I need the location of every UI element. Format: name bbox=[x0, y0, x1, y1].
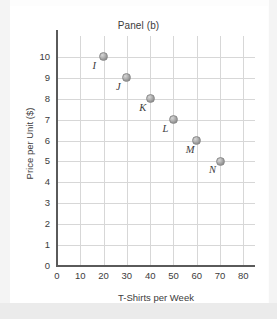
y-tick-label: 4 bbox=[26, 176, 50, 187]
gridline-vertical bbox=[80, 36, 81, 266]
y-tick-label: 2 bbox=[26, 218, 50, 229]
x-tick-label: 80 bbox=[231, 270, 255, 281]
data-point-marker bbox=[122, 73, 131, 82]
figure-panel-b: Panel (b) IJKLMN T-Shirts per Week Price… bbox=[0, 0, 277, 319]
x-tick-label: 70 bbox=[208, 270, 232, 281]
data-point-marker bbox=[146, 94, 155, 103]
y-tick-label: 6 bbox=[26, 135, 50, 146]
y-tick-label: 7 bbox=[26, 114, 50, 125]
data-point-marker bbox=[169, 115, 178, 124]
gridline-horizontal bbox=[57, 120, 255, 121]
y-tick-label: 0 bbox=[26, 260, 50, 271]
y-axis-spine bbox=[56, 30, 58, 267]
gridline-horizontal bbox=[57, 203, 255, 204]
data-point-marker bbox=[216, 157, 225, 166]
data-point-label: K bbox=[139, 102, 146, 113]
gridline-vertical bbox=[243, 36, 244, 266]
scan-edge-left bbox=[0, 0, 10, 319]
gridline-horizontal bbox=[57, 161, 255, 162]
scan-edge-right bbox=[269, 0, 277, 319]
data-point-label: J bbox=[116, 81, 121, 92]
gridline-vertical bbox=[197, 36, 198, 266]
gridline-vertical bbox=[220, 36, 221, 266]
y-tick-label: 8 bbox=[26, 93, 50, 104]
data-point-label: N bbox=[209, 164, 216, 175]
scan-edge-bottom bbox=[0, 303, 277, 319]
x-tick-label: 50 bbox=[161, 270, 185, 281]
x-tick-label: 30 bbox=[115, 270, 139, 281]
gridline-vertical bbox=[173, 36, 174, 266]
data-point-label: L bbox=[162, 123, 168, 134]
y-tick-label: 9 bbox=[26, 72, 50, 83]
y-tick-label: 10 bbox=[26, 51, 50, 62]
gridline-horizontal bbox=[57, 224, 255, 225]
y-tick-label: 5 bbox=[26, 155, 50, 166]
data-point-marker bbox=[99, 52, 108, 61]
gridline-vertical bbox=[150, 36, 151, 266]
data-point-label: I bbox=[93, 60, 97, 71]
gridline-horizontal bbox=[57, 245, 255, 246]
gridline-vertical bbox=[127, 36, 128, 266]
x-tick-label: 40 bbox=[138, 270, 162, 281]
gridline-horizontal bbox=[57, 57, 255, 58]
gridline-vertical bbox=[104, 36, 105, 266]
gridline-horizontal bbox=[57, 99, 255, 100]
gridline-horizontal bbox=[57, 182, 255, 183]
x-tick-label: 60 bbox=[185, 270, 209, 281]
y-tick-label: 3 bbox=[26, 197, 50, 208]
chart-title: Panel (b) bbox=[0, 20, 277, 31]
y-tick-label: 1 bbox=[26, 239, 50, 250]
x-tick-label: 20 bbox=[92, 270, 116, 281]
plot-area: IJKLMN bbox=[57, 36, 255, 266]
x-axis-label: T-Shirts per Week bbox=[57, 292, 255, 303]
data-point-label: M bbox=[186, 144, 195, 155]
x-tick-label: 0 bbox=[45, 270, 69, 281]
x-axis-spine bbox=[57, 265, 255, 267]
gridline-horizontal bbox=[57, 78, 255, 79]
gridline-horizontal bbox=[57, 141, 255, 142]
x-tick-label: 10 bbox=[68, 270, 92, 281]
